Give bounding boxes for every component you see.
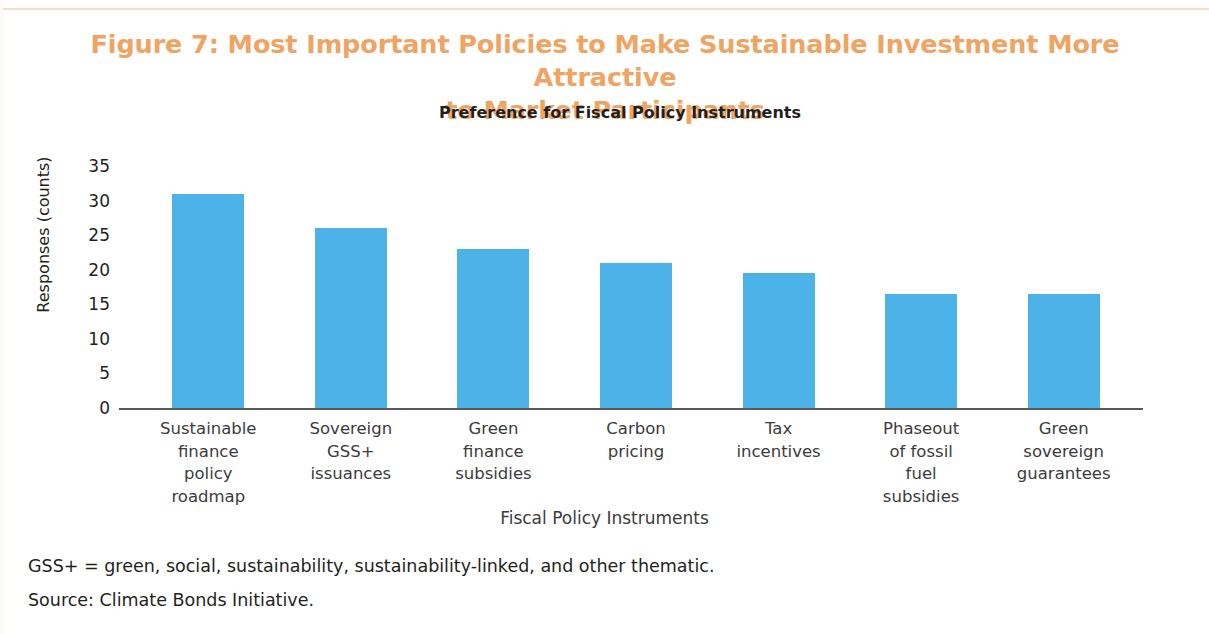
x-tick-label: Phaseout of fossil fuel subsidies <box>850 418 993 508</box>
y-tick-label: 30 <box>70 193 110 210</box>
x-tick-label: Sovereign GSS+ issuances <box>280 418 423 486</box>
figure-page: Figure 7: Most Important Policies to Mak… <box>0 0 1209 634</box>
note-abbreviation: GSS+ = green, social, sustainability, su… <box>28 556 714 576</box>
x-tick-label: Green sovereign guarantees <box>992 418 1135 486</box>
x-axis-line <box>119 408 1143 410</box>
y-tick-label: 15 <box>70 296 110 313</box>
y-tick-label: 25 <box>70 227 110 244</box>
x-axis-title: Fiscal Policy Instruments <box>0 508 1209 528</box>
chart-plot: 05101520253035 Responses (counts) Fiscal… <box>0 0 1209 634</box>
bar <box>172 194 244 408</box>
x-tick-label: Green finance subsidies <box>422 418 565 486</box>
y-tick-label: 20 <box>70 262 110 279</box>
bar <box>600 263 672 408</box>
bar <box>743 273 815 408</box>
bar <box>885 294 957 408</box>
note-source: Source: Climate Bonds Initiative. <box>28 590 314 610</box>
plot-area <box>137 166 1135 408</box>
x-tick-label: Tax incentives <box>707 418 850 463</box>
bar <box>1028 294 1100 408</box>
y-tick-label: 10 <box>70 331 110 348</box>
x-tick-label: Sustainable finance policy roadmap <box>137 418 280 508</box>
bar <box>315 228 387 408</box>
bar <box>457 249 529 408</box>
y-axis-title: Responses (counts) <box>34 130 53 340</box>
y-tick-label: 5 <box>70 365 110 382</box>
y-tick-label: 35 <box>70 158 110 175</box>
y-axis-ticks: 05101520253035 <box>62 0 110 634</box>
y-tick-label: 0 <box>70 400 110 417</box>
x-tick-label: Carbon pricing <box>565 418 708 463</box>
